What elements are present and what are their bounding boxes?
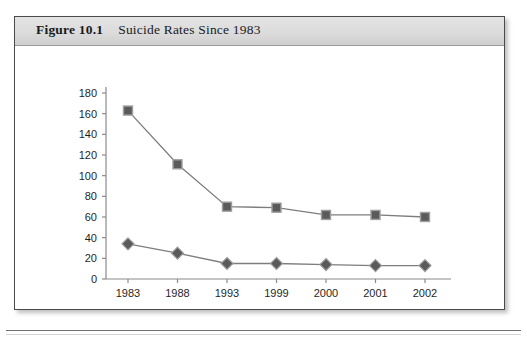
x-axis-tick-label: 1993 [215,287,239,299]
figure-caption: Figure 10.1Suicide Rates Since 1983 [36,22,261,38]
x-axis-tick-label: 1983 [116,287,140,299]
data-point-prison [221,258,233,270]
figure-caption-bar: Figure 10.1Suicide Rates Since 1983 [15,17,504,46]
data-point-jail [173,160,182,169]
page-rule-top [6,330,521,331]
figure-title: Suicide Rates Since 1983 [118,22,260,37]
figure-number: Figure 10.1 [36,22,103,37]
chart-area: 0204060801001201401601801983198819931999… [15,46,504,310]
y-axis-tick-label: 0 [91,273,97,285]
data-point-jail [421,213,430,222]
y-axis-tick-label: 100 [79,170,97,182]
x-axis-tick-label: 2002 [413,287,437,299]
data-point-prison [172,247,184,259]
figure-frame: Figure 10.1Suicide Rates Since 1983 0204… [14,16,505,310]
x-axis-tick-label: 2000 [314,287,338,299]
line-chart: 0204060801001201401601801983198819931999… [15,46,506,310]
data-point-jail [371,210,380,219]
data-point-prison [370,260,382,272]
y-axis-tick-label: 80 [85,190,97,202]
series-jail [124,106,430,221]
data-point-jail [223,202,232,211]
data-point-prison [122,238,134,250]
x-axis-tick-label: 1999 [264,287,288,299]
data-point-jail [322,210,331,219]
y-axis-tick-label: 180 [79,87,97,99]
x-axis-tick-label: 1988 [165,287,189,299]
x-axis-tick-label: 2001 [363,287,387,299]
data-point-jail [124,106,133,115]
y-axis-tick-label: 40 [85,232,97,244]
y-axis-tick-label: 160 [79,108,97,120]
data-point-prison [320,259,332,271]
data-point-jail [272,203,281,212]
y-axis-tick-label: 140 [79,128,97,140]
series-prison [122,238,431,272]
y-axis-tick-label: 20 [85,252,97,264]
y-axis-tick-label: 60 [85,211,97,223]
data-point-prison [271,258,283,270]
y-axis-tick-label: 120 [79,149,97,161]
data-point-prison [419,260,431,272]
page-rule-bottom [6,334,521,335]
